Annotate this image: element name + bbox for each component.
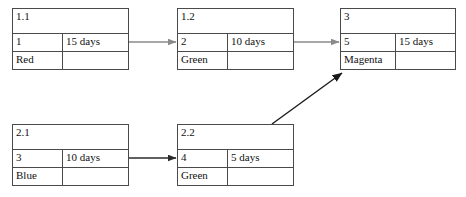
task-resource: Magenta bbox=[341, 52, 396, 69]
task-sequence: 4 bbox=[178, 150, 228, 166]
task-node-header: 1.1 bbox=[13, 9, 128, 34]
task-node-sequence-row: 2 10 days bbox=[178, 34, 293, 51]
task-resource: Green bbox=[178, 52, 228, 69]
task-node-header: 2.2 bbox=[178, 125, 293, 150]
task-node-resource-row: Magenta bbox=[341, 52, 455, 69]
task-node-resource-row: Blue bbox=[13, 168, 128, 185]
task-node-2-1[interactable]: 2.1 3 10 days Blue bbox=[12, 124, 129, 186]
task-duration: 15 days bbox=[63, 34, 128, 50]
task-node-sequence-row: 3 10 days bbox=[13, 150, 128, 167]
task-resource: Red bbox=[13, 52, 63, 69]
task-node-1-2[interactable]: 1.2 2 10 days Green bbox=[177, 8, 294, 70]
task-duration: 15 days bbox=[396, 34, 455, 50]
task-node-2-2[interactable]: 2.2 4 5 days Green bbox=[177, 124, 294, 186]
task-resource: Blue bbox=[13, 168, 63, 185]
connector-2-2-to-3 bbox=[272, 73, 342, 124]
task-node-resource-row: Green bbox=[178, 52, 293, 69]
task-duration: 5 days bbox=[228, 150, 293, 166]
task-label: 3 bbox=[341, 9, 455, 33]
task-node-header: 1.2 bbox=[178, 9, 293, 34]
task-sequence: 5 bbox=[341, 34, 396, 50]
task-extra bbox=[63, 168, 128, 185]
task-extra bbox=[63, 52, 128, 69]
task-sequence: 2 bbox=[178, 34, 228, 50]
task-node-1-1[interactable]: 1.1 1 15 days Red bbox=[12, 8, 129, 70]
task-node-3[interactable]: 3 5 15 days Magenta bbox=[340, 8, 456, 70]
task-node-sequence-row: 1 15 days bbox=[13, 34, 128, 51]
task-node-header: 3 bbox=[341, 9, 455, 34]
task-sequence: 3 bbox=[13, 150, 63, 166]
task-label: 2.2 bbox=[178, 125, 293, 149]
task-node-sequence-row: 5 15 days bbox=[341, 34, 455, 51]
task-duration: 10 days bbox=[228, 34, 293, 50]
activity-network-diagram: 1.1 1 15 days Red 1.2 2 10 days Green 3 … bbox=[0, 0, 466, 197]
task-node-sequence-row: 4 5 days bbox=[178, 150, 293, 167]
task-label: 1.2 bbox=[178, 9, 293, 33]
task-node-resource-row: Red bbox=[13, 52, 128, 69]
task-node-header: 2.1 bbox=[13, 125, 128, 150]
task-extra bbox=[396, 52, 455, 69]
task-resource: Green bbox=[178, 168, 228, 185]
task-extra bbox=[228, 168, 293, 185]
task-node-resource-row: Green bbox=[178, 168, 293, 185]
task-label: 1.1 bbox=[13, 9, 128, 33]
task-extra bbox=[228, 52, 293, 69]
task-duration: 10 days bbox=[63, 150, 128, 166]
task-sequence: 1 bbox=[13, 34, 63, 50]
task-label: 2.1 bbox=[13, 125, 128, 149]
